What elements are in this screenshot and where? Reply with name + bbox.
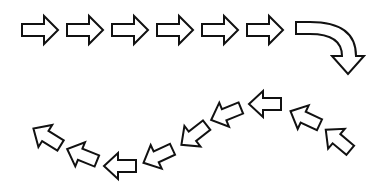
arrow-flow-diagram xyxy=(0,0,376,189)
